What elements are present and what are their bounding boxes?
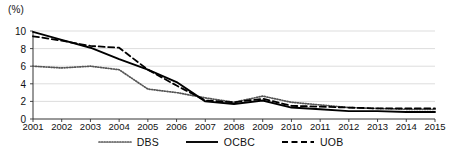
- series-line-dbs: [33, 66, 435, 109]
- y-tick-label-4: 4: [4, 78, 26, 89]
- legend-swatch-uob: [281, 138, 315, 146]
- legend-label-ocbc: OCBC: [224, 136, 255, 148]
- y-tick-label-10: 10: [4, 26, 26, 37]
- legend-swatch-dbs: [98, 138, 132, 146]
- legend-item-dbs[interactable]: DBS: [98, 136, 159, 148]
- legend-item-ocbc[interactable]: OCBC: [185, 136, 255, 148]
- series-lines: [33, 32, 435, 112]
- series-line-ocbc: [33, 32, 435, 112]
- legend-swatch-ocbc: [185, 138, 219, 146]
- axis-lines: [30, 31, 435, 119]
- series-line-uob: [33, 36, 435, 108]
- chart-legend: DBS OCBC UOB: [0, 136, 441, 148]
- y-tick-label-6: 6: [4, 61, 26, 72]
- x-tick-label-2015: 2015: [415, 121, 450, 132]
- legend-item-uob[interactable]: UOB: [281, 136, 343, 148]
- y-tick-label-8: 8: [4, 43, 26, 54]
- legend-label-dbs: DBS: [137, 136, 159, 148]
- legend-label-uob: UOB: [320, 136, 343, 148]
- y-tick-label-2: 2: [4, 96, 26, 107]
